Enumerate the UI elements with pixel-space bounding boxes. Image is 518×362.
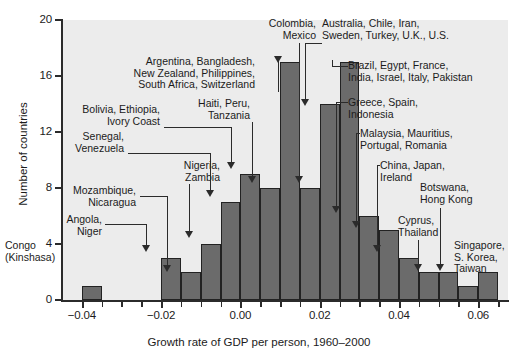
x-tick-mark — [498, 301, 500, 307]
histogram-bar — [478, 272, 498, 300]
annotation-arrowhead — [414, 264, 422, 271]
leader-line — [189, 184, 190, 232]
x-tick-mark — [458, 301, 460, 307]
annotation-arrowhead — [301, 99, 309, 106]
x-tick-label: 0.02 — [290, 309, 350, 321]
histogram-bar — [300, 188, 320, 300]
leader-line — [146, 224, 147, 246]
y-tick-mark — [55, 19, 61, 21]
x-tick-mark — [141, 301, 143, 307]
x-tick-mark — [181, 301, 183, 307]
leader-line — [252, 122, 253, 177]
x-tick-mark — [102, 301, 104, 307]
x-tick-mark — [320, 301, 322, 308]
x-tick-mark — [478, 301, 480, 308]
x-tick-mark — [280, 301, 282, 307]
annotation-angola: Angola, Niger — [40, 214, 102, 237]
leader-line — [336, 102, 337, 207]
annotation-senegal: Senegal, Venezuela — [40, 131, 124, 154]
x-tick-mark — [419, 301, 421, 307]
annotation-china: China, Japan, Ireland — [380, 160, 475, 183]
leader-line — [299, 43, 300, 177]
annotation-singapore: Singapore, S. Korea, Taiwan — [454, 240, 516, 275]
leader-line — [140, 196, 167, 197]
annotation-arrowhead — [274, 56, 282, 63]
leader-line — [332, 66, 348, 67]
x-tick-label: −0.04 — [52, 309, 112, 321]
x-tick-label: −0.02 — [131, 309, 191, 321]
annotation-arrowhead — [295, 176, 303, 183]
annotation-bolivia: Bolivia, Ethiopia, Ivory Coast — [50, 104, 160, 127]
histogram-bar — [82, 286, 102, 300]
leader-line — [231, 127, 232, 163]
annotation-arrowhead — [352, 221, 360, 228]
x-tick-mark — [379, 301, 381, 307]
y-tick-mark — [55, 299, 61, 301]
annotation-greece: Greece, Spain, Indonesia — [348, 97, 458, 120]
x-tick-mark — [82, 301, 84, 308]
annotation-malaysia: Malaysia, Mauritius, Portugal, Romania — [360, 128, 500, 151]
x-tick-mark — [340, 301, 342, 307]
annotation-colombia: Colombia, Mexico — [248, 18, 316, 41]
leader-line — [167, 196, 168, 266]
leader-line — [418, 240, 419, 265]
y-tick-label: 20 — [20, 13, 52, 25]
x-tick-mark — [300, 301, 302, 307]
x-tick-mark — [260, 301, 262, 307]
x-tick-mark — [121, 301, 123, 307]
annotation-arrowhead — [248, 176, 256, 183]
x-tick-mark — [161, 301, 163, 308]
leader-line — [332, 60, 333, 66]
leader-line — [305, 43, 322, 44]
histogram-bar — [240, 174, 260, 300]
annotation-argentina: Argentina, Bangladesh, New Zealand, Phil… — [130, 56, 255, 91]
x-tick-label: 0.04 — [369, 309, 429, 321]
histogram-bar — [221, 202, 241, 300]
y-tick-mark — [55, 75, 61, 77]
annotation-arrowhead — [185, 231, 193, 238]
histogram-bar — [439, 272, 459, 300]
histogram-bar — [201, 244, 221, 300]
annotation-mozambique: Mozambique, Nicaragua — [36, 185, 136, 208]
leader-line — [440, 208, 441, 265]
histogram-bar — [458, 286, 478, 300]
annotation-arrowhead — [206, 190, 214, 197]
histogram-figure: 048121620 −0.04−0.020.000.020.040.06 Con… — [0, 0, 518, 362]
x-tick-mark — [439, 301, 441, 307]
leader-line — [164, 127, 231, 128]
x-axis-line — [61, 300, 509, 302]
annotation-congo: Congo (Kinshasa) — [5, 240, 63, 263]
annotation-arrowhead — [163, 265, 171, 272]
histogram-bar — [260, 188, 280, 300]
leader-line — [305, 43, 306, 100]
annotation-australia: Australia, Chile, Iran, Sweden, Turkey, … — [322, 18, 502, 41]
annotation-arrowhead — [227, 162, 235, 169]
y-axis-title: Number of countries — [17, 69, 29, 239]
annotation-arrowhead — [436, 264, 444, 271]
histogram-bar — [419, 272, 439, 300]
histogram-bar — [181, 272, 201, 300]
x-tick-label: 0.00 — [210, 309, 270, 321]
x-tick-mark — [201, 301, 203, 307]
x-axis-title: Growth rate of GDP per person, 1960–2000 — [0, 336, 518, 348]
leader-line — [210, 153, 211, 191]
annotation-cyprus: Cyprus, Thailand — [398, 215, 476, 238]
leader-line — [336, 102, 348, 103]
annotation-arrowhead — [142, 245, 150, 252]
annotation-brazil: Brazil, Egypt, France, India, Israel, It… — [348, 60, 518, 83]
annotation-arrowhead — [373, 245, 381, 252]
x-tick-mark — [399, 301, 401, 308]
leader-line — [356, 133, 357, 222]
annotation-haiti: Haiti, Peru, Tanzania — [160, 98, 250, 121]
x-tick-mark — [221, 301, 223, 307]
leader-line — [128, 153, 210, 154]
leader-line — [377, 165, 378, 246]
histogram-bar — [379, 230, 399, 300]
x-tick-label: 0.06 — [448, 309, 508, 321]
y-tick-label: 0 — [20, 293, 52, 305]
annotation-botswana: Botswana, Hong Kong — [420, 182, 518, 205]
annotation-arrowhead — [332, 206, 340, 213]
x-tick-mark — [359, 301, 361, 307]
x-tick-mark — [240, 301, 242, 308]
leader-line — [105, 224, 146, 225]
